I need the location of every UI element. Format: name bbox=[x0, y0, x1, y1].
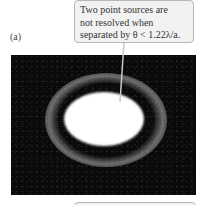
callout-box: Two point sources are not resolved when … bbox=[74, 0, 194, 43]
callout-line-2: not resolved when bbox=[80, 17, 188, 30]
bottom-callout-box bbox=[74, 202, 196, 205]
callout-line-1: Two point sources are bbox=[80, 4, 188, 17]
callout-line-3: separated by θ < 1.22λ/a. bbox=[80, 29, 188, 42]
panel-label: (a) bbox=[10, 31, 21, 42]
central-bright-spot bbox=[64, 92, 144, 146]
diffraction-image bbox=[11, 55, 196, 195]
